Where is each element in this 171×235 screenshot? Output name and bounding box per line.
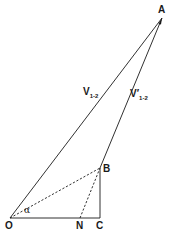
- vector-subscript: 1-2: [90, 93, 99, 99]
- vector-label-V12: V1-2: [83, 87, 98, 99]
- vector-diagram: [0, 0, 171, 235]
- point-label-A: A: [158, 5, 165, 15]
- dashed-line-NB: [80, 168, 100, 218]
- point-label-O: O: [5, 221, 13, 231]
- vector-label-V12-prime: V′1-2: [130, 89, 148, 101]
- point-label-N: N: [76, 221, 83, 231]
- point-label-B: B: [103, 164, 110, 174]
- vector-symbol: V′: [130, 88, 139, 99]
- vector-subscript: 1-2: [139, 95, 148, 101]
- vector-symbol: V: [83, 86, 90, 97]
- point-label-C: C: [96, 221, 103, 231]
- line-OA: [10, 18, 162, 218]
- angle-label-alpha: α: [24, 206, 30, 215]
